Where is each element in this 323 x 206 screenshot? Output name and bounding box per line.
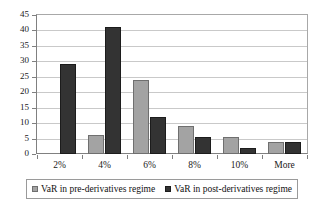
x-tick-mark bbox=[82, 155, 83, 159]
bar-pre-derivatives bbox=[223, 137, 239, 154]
y-tick-label: 35 bbox=[20, 41, 29, 50]
legend-swatch-post-icon bbox=[165, 186, 171, 192]
x-tick-mark bbox=[37, 155, 38, 159]
bar-group bbox=[262, 15, 307, 154]
y-tick-label: 20 bbox=[20, 87, 29, 96]
x-tick-label: 6% bbox=[127, 160, 172, 170]
y-tick-mark bbox=[32, 77, 36, 78]
y-tick-mark bbox=[32, 15, 36, 16]
x-tick-label: 10% bbox=[217, 160, 262, 170]
bar-post-derivatives bbox=[150, 117, 166, 154]
y-tick-label: 0 bbox=[25, 149, 30, 158]
bar-chart: 051015202530354045 2%4%6%8%10%More VaR i… bbox=[0, 0, 323, 206]
legend-swatch-pre-icon bbox=[32, 186, 38, 192]
bar-post-derivatives bbox=[285, 142, 301, 154]
bar-pre-derivatives bbox=[88, 135, 104, 154]
y-tick-label: 5 bbox=[25, 134, 30, 143]
y-tick-mark bbox=[32, 108, 36, 109]
y-tick-label: 30 bbox=[20, 56, 29, 65]
legend-label-pre: VaR in pre-derivatives regime bbox=[41, 184, 155, 194]
y-tick-label: 25 bbox=[20, 72, 29, 81]
bar-post-derivatives bbox=[105, 27, 121, 154]
x-tick-label: 2% bbox=[37, 160, 82, 170]
y-tick-mark bbox=[32, 46, 36, 47]
chart-legend: VaR in pre-derivatives regime VaR in pos… bbox=[26, 179, 298, 199]
y-tick-mark bbox=[32, 154, 36, 155]
y-tick-mark bbox=[32, 30, 36, 31]
x-tick-label: 8% bbox=[172, 160, 217, 170]
y-tick-label: 45 bbox=[20, 10, 29, 19]
bar-pre-derivatives bbox=[268, 142, 284, 154]
bar-pre-derivatives bbox=[178, 126, 194, 154]
x-tick-mark bbox=[217, 155, 218, 159]
y-tick-mark bbox=[32, 61, 36, 62]
y-tick-label: 15 bbox=[20, 103, 29, 112]
bar-group bbox=[37, 15, 82, 154]
x-tick-mark bbox=[172, 155, 173, 159]
bar-post-derivatives bbox=[195, 137, 211, 154]
legend-item-post: VaR in post-derivatives regime bbox=[165, 184, 292, 194]
y-tick-mark bbox=[32, 123, 36, 124]
legend-label-post: VaR in post-derivatives regime bbox=[174, 184, 292, 194]
y-tick-label: 10 bbox=[20, 118, 29, 127]
bar-post-derivatives bbox=[60, 64, 76, 154]
x-tick-mark bbox=[127, 155, 128, 159]
y-tick-mark bbox=[32, 139, 36, 140]
bar-pre-derivatives bbox=[133, 80, 149, 154]
x-tick-mark bbox=[307, 155, 308, 159]
bar-group bbox=[172, 15, 217, 154]
bars-layer bbox=[37, 15, 307, 154]
y-axis: 051015202530354045 bbox=[0, 0, 36, 170]
x-tick-label: More bbox=[262, 160, 307, 170]
bar-group bbox=[82, 15, 127, 154]
x-axis: 2%4%6%8%10%More bbox=[37, 155, 307, 173]
x-tick-mark bbox=[262, 155, 263, 159]
bar-group bbox=[127, 15, 172, 154]
y-tick-label: 40 bbox=[20, 25, 29, 34]
legend-item-pre: VaR in pre-derivatives regime bbox=[32, 184, 155, 194]
x-tick-label: 4% bbox=[82, 160, 127, 170]
bar-group bbox=[217, 15, 262, 154]
bar-post-derivatives bbox=[240, 148, 256, 154]
y-tick-mark bbox=[32, 92, 36, 93]
